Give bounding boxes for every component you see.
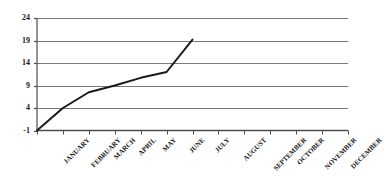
y-axis-tick-label: -1 <box>8 127 30 135</box>
data-series-line <box>37 40 193 131</box>
y-axis-tick-label: 19 <box>8 37 30 45</box>
y-axis-tick-label: 9 <box>8 82 30 90</box>
y-axis-tick-label: 14 <box>8 59 30 67</box>
y-axis-tick-label: 4 <box>8 104 30 112</box>
y-axis-tick-label: 24 <box>8 14 30 22</box>
gridlines <box>37 19 348 132</box>
